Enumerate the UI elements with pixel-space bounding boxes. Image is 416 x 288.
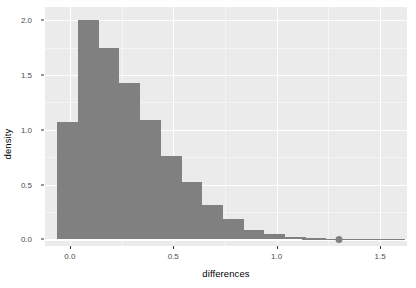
x-axis-tick-label: 0.5: [168, 252, 179, 261]
x-axis-tick-label: 1.5: [375, 252, 386, 261]
histogram-bar: [264, 234, 285, 239]
histogram-bar: [140, 120, 161, 240]
histogram-bar: [161, 156, 182, 239]
y-axis-tick-mark: [41, 129, 44, 130]
x-axis-tick-mark: [277, 246, 278, 249]
x-axis-tick-label: 1.0: [271, 252, 282, 261]
tail-line: [302, 239, 405, 240]
y-axis-title: density: [0, 0, 14, 288]
y-axis-tick-mark: [41, 20, 44, 21]
histogram-bar: [182, 182, 203, 239]
y-axis-tick-mark: [41, 184, 44, 185]
histogram-bar: [57, 122, 78, 239]
histogram-bar: [119, 83, 140, 240]
y-axis-tick-label: 0.5: [21, 180, 32, 189]
density-histogram-plot: 0.00.51.01.52.0 0.00.51.01.5 density dif…: [0, 0, 416, 288]
histogram-bar: [223, 219, 244, 240]
histogram-bar: [202, 205, 223, 239]
gridline-major-vertical: [380, 7, 381, 246]
x-axis-tick-mark: [173, 246, 174, 249]
y-axis-tick-label: 0.0: [21, 235, 32, 244]
gridline-minor-vertical: [225, 7, 226, 246]
y-axis-tick-label: 1.5: [21, 70, 32, 79]
y-axis-tick-label: 2.0: [21, 16, 32, 25]
histogram-bar: [78, 20, 99, 239]
y-axis-tick-mark: [41, 74, 44, 75]
x-axis-tick-label: 0.0: [64, 252, 75, 261]
x-axis-title: differences: [45, 268, 407, 279]
x-axis-tick-mark: [70, 246, 71, 249]
plot-panel: [45, 7, 407, 246]
y-axis-tick-label: 1.0: [21, 125, 32, 134]
histogram-bar: [99, 48, 120, 240]
gridline-major-horizontal: [45, 20, 407, 21]
gridline-major-vertical: [277, 7, 278, 246]
x-axis-tick-mark: [380, 246, 381, 249]
y-axis-tick-mark: [41, 239, 44, 240]
histogram-bar: [244, 230, 265, 240]
gridline-minor-vertical: [328, 7, 329, 246]
annotation-point: [335, 236, 342, 243]
